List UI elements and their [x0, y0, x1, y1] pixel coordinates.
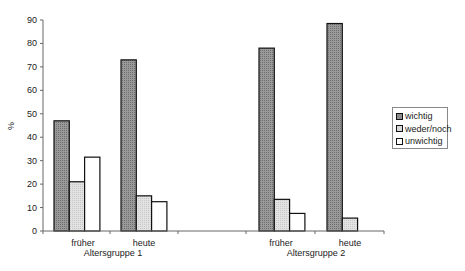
bars	[54, 24, 358, 231]
bar-wichtig	[327, 24, 342, 231]
bar-wichtig	[259, 48, 274, 231]
y-axis: 0102030405060708090	[27, 15, 43, 236]
legend-item-unwichtig: unwichtig	[396, 135, 447, 148]
legend-item-wichtig: wichtig	[396, 110, 447, 123]
x-group-label-ag1: Altersgruppe 1	[84, 248, 143, 258]
y-tick-label: 30	[27, 156, 37, 166]
legend-swatch-icon	[396, 138, 403, 145]
y-tick-label: 40	[27, 132, 37, 142]
legend-item-weder-noch: weder/noch	[396, 123, 447, 136]
y-axis-label: %	[6, 122, 16, 130]
x-group-label-ag2: Altersgruppe 2	[287, 248, 346, 258]
y-tick-label: 80	[27, 38, 37, 48]
legend-label: wichtig	[405, 111, 433, 121]
legend-label: weder/noch	[405, 124, 452, 134]
x-label-ag1-heute: heute	[133, 238, 156, 248]
bar-weder-noch	[136, 196, 151, 231]
x-label-ag2-frueher: früher	[269, 238, 293, 248]
y-tick-label: 70	[27, 62, 37, 72]
bar-weder-noch	[69, 182, 84, 231]
x-label-ag1-frueher: früher	[71, 238, 95, 248]
x-label-ag2-heute: heute	[339, 238, 362, 248]
bar-wichtig	[121, 60, 136, 231]
y-tick-label: 60	[27, 85, 37, 95]
legend-label: unwichtig	[405, 136, 443, 146]
y-tick-label: 90	[27, 15, 37, 25]
bar-wichtig	[54, 121, 69, 231]
bar-unwichtig	[152, 202, 167, 231]
legend: wichtig weder/noch unwichtig	[392, 107, 448, 149]
bar-weder-noch	[342, 218, 357, 231]
y-tick-label: 10	[27, 203, 37, 213]
y-tick-label: 0	[32, 226, 37, 236]
x-axis	[43, 231, 384, 234]
legend-swatch-icon	[396, 125, 403, 132]
bar-weder-noch	[274, 199, 289, 231]
y-tick-label: 50	[27, 109, 37, 119]
y-tick-label: 20	[27, 179, 37, 189]
legend-swatch-icon	[396, 113, 403, 120]
bar-unwichtig	[85, 157, 100, 231]
bar-unwichtig	[290, 213, 305, 231]
